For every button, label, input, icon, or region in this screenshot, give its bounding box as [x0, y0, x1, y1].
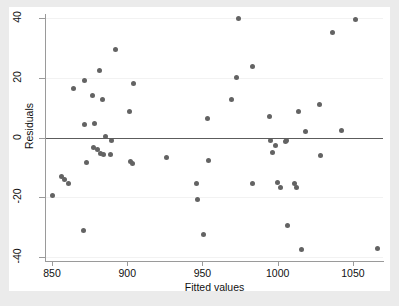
- x-tick-mark-1000: [278, 261, 279, 266]
- y-tick-label-0: 0: [11, 120, 23, 154]
- data-point: [268, 138, 273, 143]
- x-tick-label-1000: 1000: [256, 267, 300, 279]
- x-axis-title: Fitted values: [46, 281, 383, 293]
- data-point: [113, 47, 118, 52]
- gridline-y--20: [46, 197, 383, 198]
- data-point: [71, 86, 76, 91]
- y-tick-label-20: 20: [11, 60, 23, 94]
- zero-reference-line: [46, 138, 383, 139]
- y-tick-mark-40: [39, 18, 45, 19]
- data-point: [296, 109, 301, 114]
- data-point: [285, 223, 290, 228]
- y-tick-mark--40: [39, 257, 45, 258]
- y-tick-mark-20: [39, 78, 45, 79]
- data-point: [82, 78, 87, 83]
- x-tick-mark-900: [127, 261, 128, 266]
- data-point: [273, 143, 278, 148]
- x-tick-label-950: 950: [180, 267, 224, 279]
- data-point: [195, 197, 200, 202]
- data-point: [353, 17, 358, 22]
- x-tick-label-900: 900: [105, 267, 149, 279]
- data-point: [130, 161, 135, 166]
- data-point: [194, 181, 199, 186]
- y-tick-mark--20: [39, 197, 45, 198]
- data-point: [82, 122, 87, 127]
- y-tick-label-40: 40: [11, 0, 23, 34]
- data-point: [267, 114, 272, 119]
- y-axis-title: Residuals: [23, 81, 35, 171]
- data-point: [131, 81, 136, 86]
- gridline-y-20: [46, 78, 383, 79]
- data-point: [206, 158, 211, 163]
- data-point: [164, 155, 169, 160]
- data-point: [250, 64, 255, 69]
- data-point: [81, 228, 86, 233]
- data-point: [127, 109, 132, 114]
- data-point: [330, 30, 335, 35]
- x-tick-mark-950: [202, 261, 203, 266]
- data-point: [84, 160, 89, 165]
- y-axis-line: [45, 14, 46, 261]
- data-point: [205, 116, 210, 121]
- data-point: [250, 181, 255, 186]
- data-point: [294, 185, 299, 190]
- data-point: [236, 16, 241, 21]
- data-point: [108, 152, 113, 157]
- data-point: [201, 232, 206, 237]
- x-tick-mark-850: [52, 261, 53, 266]
- data-point: [66, 181, 71, 186]
- data-point: [339, 128, 344, 133]
- gridline-y--40: [46, 257, 383, 258]
- gridline-y-40: [46, 18, 383, 19]
- data-point: [299, 247, 304, 252]
- x-tick-mark-1050: [353, 261, 354, 266]
- data-point: [234, 75, 239, 80]
- data-point: [229, 97, 234, 102]
- data-point: [318, 153, 323, 158]
- data-point: [101, 152, 106, 157]
- data-point: [375, 246, 380, 251]
- x-axis-line: [45, 261, 384, 262]
- data-point: [278, 185, 283, 190]
- x-tick-label-1050: 1050: [331, 267, 375, 279]
- y-tick-mark-0: [39, 138, 45, 139]
- data-point: [97, 68, 102, 73]
- y-tick-label--20: -20: [11, 179, 23, 213]
- data-point: [317, 102, 322, 107]
- data-point: [270, 150, 275, 155]
- data-point: [50, 193, 55, 198]
- data-point: [90, 93, 95, 98]
- data-point: [92, 121, 97, 126]
- plot-data-area: [46, 15, 383, 260]
- scatter-plot-figure: -40-2002040 85090095010001050 Residuals …: [0, 0, 399, 306]
- data-point: [284, 138, 289, 143]
- x-tick-label-850: 850: [30, 267, 74, 279]
- data-point: [100, 97, 105, 102]
- data-point: [303, 129, 308, 134]
- y-tick-label--40: -40: [11, 239, 23, 273]
